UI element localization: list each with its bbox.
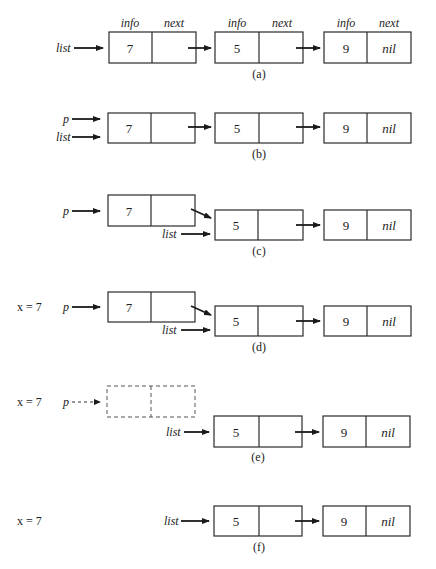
panel-a: info next info next info next list 7 5 9… xyxy=(56,16,411,81)
header-next: next xyxy=(379,16,400,30)
node-next: nil xyxy=(382,218,396,233)
pointer-label-p: p xyxy=(62,395,69,409)
node: 7 xyxy=(108,292,195,322)
variable-x: x = 7 xyxy=(17,395,42,409)
variable-x: x = 7 xyxy=(17,514,42,528)
caption: (e) xyxy=(251,450,264,464)
linked-list-diagram: info next info next info next list 7 5 9… xyxy=(0,0,436,569)
header-next: next xyxy=(164,16,185,30)
node-info: 7 xyxy=(126,204,133,219)
node-info: 7 xyxy=(126,121,133,136)
pointer-label-list: list xyxy=(56,41,71,55)
node-next: nil xyxy=(382,121,396,136)
pointer-label-list: list xyxy=(166,425,181,439)
pointer-label-list: list xyxy=(162,227,177,241)
node-next: nil xyxy=(381,425,395,440)
node: 7 xyxy=(108,113,195,143)
caption: (b) xyxy=(252,147,266,161)
node-info: 9 xyxy=(341,425,348,440)
pointer-label-p: p xyxy=(62,112,69,126)
variable-x: x = 7 xyxy=(17,300,42,314)
node: 7 xyxy=(108,195,195,226)
node: 9 nil xyxy=(323,506,410,536)
node: 9 nil xyxy=(324,306,411,336)
node-next: nil xyxy=(382,41,396,56)
pointer-label-list: list xyxy=(56,130,71,144)
header-info: info xyxy=(121,16,140,30)
node-info: 9 xyxy=(341,514,348,529)
caption: (a) xyxy=(252,67,265,81)
node: 5 xyxy=(214,506,302,536)
node-info: 5 xyxy=(233,218,240,233)
node: 9 nil xyxy=(323,416,410,447)
node-next: nil xyxy=(381,514,395,529)
arrowhead-icon xyxy=(94,399,101,405)
node-info: 9 xyxy=(343,41,350,56)
node: 5 xyxy=(215,210,303,240)
panel-c: p 7 list 5 9 nil (c) xyxy=(62,195,411,258)
panel-d: x = 7 p 7 list 5 9 nil (d) xyxy=(17,292,411,354)
node-info: 7 xyxy=(127,41,134,56)
node-info: 9 xyxy=(343,121,350,136)
node: 5 xyxy=(214,416,302,447)
node-info: 5 xyxy=(234,121,241,136)
node-info: 5 xyxy=(233,514,240,529)
node-info: 5 xyxy=(233,314,240,329)
pointer-label-p: p xyxy=(62,300,69,314)
pointer-label-list: list xyxy=(162,323,177,337)
node: 9 nil xyxy=(324,32,411,63)
node: 9 nil xyxy=(324,210,411,240)
node-info: 9 xyxy=(343,314,350,329)
node: 5 xyxy=(215,32,303,63)
header-info: info xyxy=(337,16,356,30)
node: 5 xyxy=(215,306,303,336)
panel-f: x = 7 list 5 9 nil (f) xyxy=(17,506,410,554)
node-info: 5 xyxy=(233,425,240,440)
node: 7 xyxy=(109,32,196,63)
node-info: 5 xyxy=(234,41,241,56)
panel-b: p list 7 5 9 nil (b) xyxy=(56,112,411,161)
node-info: 7 xyxy=(126,300,133,315)
pointer-label-list: list xyxy=(164,514,179,528)
header-next: next xyxy=(272,16,293,30)
caption: (f) xyxy=(253,540,265,554)
header-info: info xyxy=(228,16,247,30)
caption: (d) xyxy=(252,340,266,354)
freed-node xyxy=(107,386,195,417)
panel-e: x = 7 p list 5 9 nil (e) xyxy=(17,386,410,464)
node: 9 nil xyxy=(324,113,411,143)
node: 5 xyxy=(215,113,303,143)
node-info: 9 xyxy=(343,218,350,233)
pointer-label-p: p xyxy=(62,204,69,218)
node-next: nil xyxy=(382,314,396,329)
caption: (c) xyxy=(252,244,265,258)
